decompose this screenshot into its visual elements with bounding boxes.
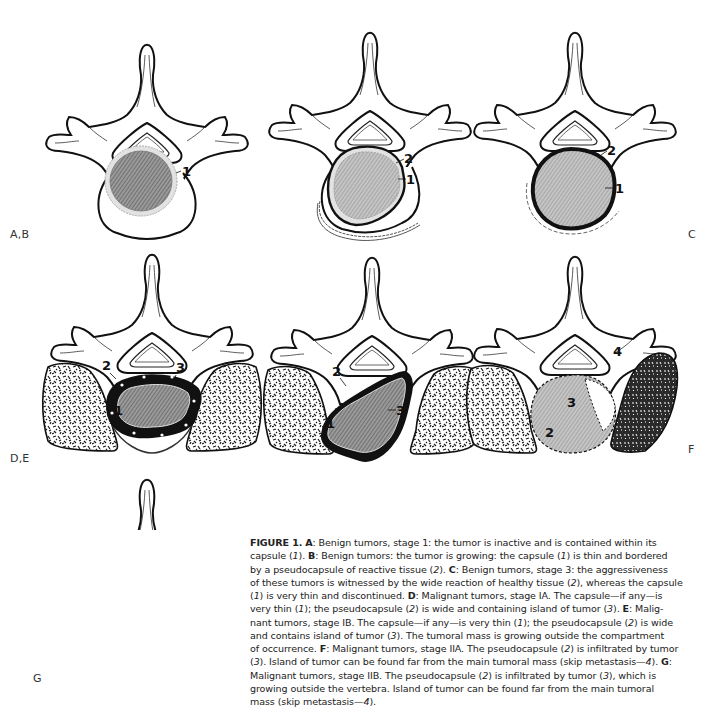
label-3: 3 bbox=[176, 360, 185, 375]
panel-label-de: D,E bbox=[10, 452, 30, 465]
label-2: 2 bbox=[332, 364, 341, 379]
caption-line: nant tumors, stage IB. The capsule—if an… bbox=[250, 616, 654, 629]
panel-d: 2 3 1 bbox=[43, 255, 262, 453]
caption-line: (1) is very thin and discontinued. D: Ma… bbox=[250, 589, 654, 602]
caption-line: mass (skip metastasis—4). bbox=[250, 695, 654, 708]
panel-e: 2 1 3 bbox=[264, 258, 481, 461]
label-1: 1 bbox=[182, 164, 191, 179]
caption-line: of occurrence. F: Malignant tumors, stag… bbox=[250, 642, 654, 655]
panel-b: 2 1 bbox=[269, 33, 471, 241]
label-2: 2 bbox=[404, 151, 413, 166]
label-2: 2 bbox=[102, 358, 111, 373]
caption-line: capsule (1). B: Benign tumors: the tumor… bbox=[250, 549, 654, 562]
label-2: 2 bbox=[545, 425, 554, 440]
figure-illustrations: 1 2 1 2 1 2 bbox=[0, 0, 708, 530]
caption-line: of these tumors is witnessed by the wide… bbox=[250, 576, 654, 589]
caption-line: by a pseudocapsule of reactive tissue (2… bbox=[250, 563, 654, 576]
caption-line: FIGURE 1. A: Benign tumors, stage 1: the… bbox=[250, 536, 654, 549]
label-3: 3 bbox=[567, 395, 576, 410]
caption-line: (3). Island of tumor can be found far fr… bbox=[250, 655, 654, 668]
panel-label-g: G bbox=[33, 672, 42, 685]
panel-label-c: C bbox=[688, 228, 696, 241]
label-1: 1 bbox=[114, 403, 123, 418]
label-3: 3 bbox=[396, 403, 405, 418]
label-1: 1 bbox=[406, 172, 415, 187]
panel-g: 4 2 3 bbox=[39, 480, 256, 530]
label-1: 1 bbox=[615, 181, 624, 196]
caption-line: and contains island of tumor (3). The tu… bbox=[250, 629, 654, 642]
label-4: 4 bbox=[613, 344, 622, 359]
panel-c: 2 1 bbox=[474, 33, 676, 234]
panel-f: 4 3 2 bbox=[467, 257, 678, 453]
label-2: 2 bbox=[607, 143, 616, 158]
panel-a: 1 bbox=[46, 45, 248, 239]
caption-line: very thin (1); the pseudocapsule (2) is … bbox=[250, 602, 654, 615]
figure-caption: FIGURE 1. A: Benign tumors, stage 1: the… bbox=[250, 536, 654, 708]
caption-line: Malignant tumors, stage IIB. The pseudoc… bbox=[250, 669, 654, 682]
panel-label-ab: A,B bbox=[10, 228, 29, 241]
caption-line: growing outside the vertebra. Island of … bbox=[250, 682, 654, 695]
label-1: 1 bbox=[326, 416, 335, 431]
panel-label-f: F bbox=[688, 443, 695, 456]
